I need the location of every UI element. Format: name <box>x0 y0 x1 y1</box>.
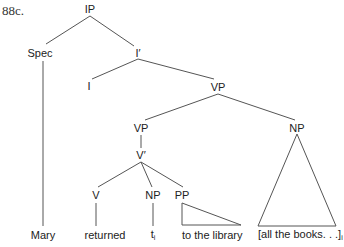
node-ip: IP <box>85 4 95 15</box>
branch-ip-ibar <box>90 16 134 46</box>
leaf-trace: ti <box>151 229 156 241</box>
leaf-returned: returned <box>85 230 126 241</box>
node-v: V <box>92 190 99 201</box>
trace-index: i <box>154 234 156 241</box>
node-i: I <box>87 81 90 92</box>
node-spec: Spec <box>27 48 52 59</box>
branch-vbar-v <box>98 162 141 187</box>
node-v-bar: V′ <box>136 150 145 161</box>
all-the-books-text: [all the books. . .] <box>258 228 341 240</box>
leaf-mary: Mary <box>31 230 55 241</box>
branch-ip-spec <box>46 16 90 44</box>
leaf-to-the-library: to the library <box>182 230 243 241</box>
syntax-tree-diagram: 88c. IP Spec I′ I VP VP NP V′ V NP PP Ma… <box>0 0 344 247</box>
branch-ibar-i <box>92 59 138 79</box>
np-triangle <box>258 134 336 226</box>
branch-vp-np <box>218 94 295 120</box>
branch-vp-vp <box>145 94 218 120</box>
pp-triangle <box>182 203 241 225</box>
branch-ibar-vp <box>138 59 214 79</box>
node-i-bar: I′ <box>135 48 140 59</box>
node-pp: PP <box>175 190 190 201</box>
branch-vbar-pp <box>141 162 183 187</box>
node-np-trace: NP <box>145 190 160 201</box>
node-np-adjoined: NP <box>289 123 304 134</box>
leaf-all-the-books: [all the books. . .]i <box>258 229 343 241</box>
example-number: 88c. <box>2 4 24 17</box>
all-the-books-index: i <box>341 234 343 241</box>
node-vp-lower: VP <box>134 123 149 134</box>
node-vp-upper: VP <box>211 82 226 93</box>
